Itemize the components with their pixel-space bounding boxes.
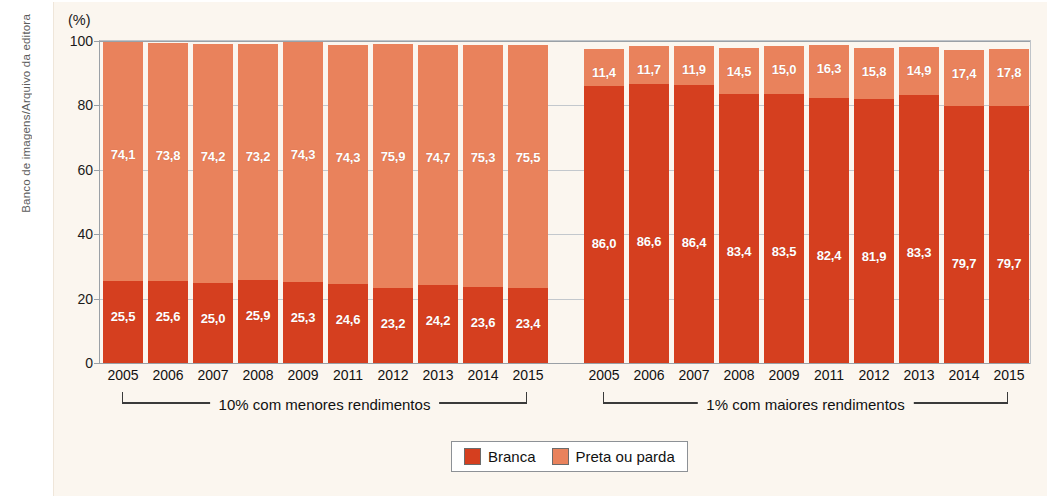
stacked-bar-lowest-incomes-2014[interactable]: 75,323,6 xyxy=(463,41,503,363)
value-label-preta-ou-parda: 75,5 xyxy=(516,150,541,165)
segment-preta-ou-parda: 17,8 xyxy=(989,49,1029,106)
plot-area: 020406080100 74,125,573,825,674,225,073,… xyxy=(99,40,1031,364)
value-label-preta-ou-parda: 75,3 xyxy=(471,150,496,165)
stacked-bar-highest-incomes-2013[interactable]: 14,983,3 xyxy=(899,41,939,363)
stacked-bar-lowest-incomes-2013[interactable]: 74,724,2 xyxy=(418,41,458,363)
group-caption: 1% com maiores rendimentos xyxy=(697,396,913,413)
segment-preta-ou-parda: 11,9 xyxy=(674,46,714,84)
stacked-bar-lowest-incomes-2008[interactable]: 73,225,9 xyxy=(238,41,278,363)
value-label-preta-ou-parda: 74,3 xyxy=(336,150,361,165)
y-axis-tick-mark xyxy=(94,170,100,171)
y-axis-tick-label: 40 xyxy=(77,226,93,242)
value-label-preta-ou-parda: 17,8 xyxy=(997,65,1022,80)
x-axis-label-2015: 2015 xyxy=(512,367,543,383)
segment-preta-ou-parda: 14,5 xyxy=(719,48,759,95)
y-axis-unit-label: (%) xyxy=(68,12,91,28)
x-axis-label-2014: 2014 xyxy=(948,367,979,383)
segment-preta-ou-parda: 74,2 xyxy=(193,44,233,283)
value-label-branca: 23,4 xyxy=(516,316,541,331)
y-axis-tick-mark xyxy=(94,41,100,42)
x-axis-label-2011: 2011 xyxy=(333,367,363,383)
y-axis-tick-label: 80 xyxy=(77,97,93,113)
segment-branca: 86,6 xyxy=(629,84,669,363)
legend-swatch-preta-ou-parda xyxy=(552,448,569,465)
legend-item-branca: Branca xyxy=(464,448,536,465)
stacked-bar-lowest-incomes-2011[interactable]: 74,324,6 xyxy=(328,41,368,363)
x-axis-label-2008: 2008 xyxy=(242,367,273,383)
segment-branca: 86,0 xyxy=(584,86,624,363)
y-axis-tick-mark xyxy=(94,234,100,235)
stacked-bar-highest-incomes-2014[interactable]: 17,479,7 xyxy=(944,41,984,363)
value-label-branca: 83,5 xyxy=(772,244,797,259)
value-label-branca: 23,2 xyxy=(381,316,406,331)
value-label-preta-ou-parda: 74,2 xyxy=(201,149,226,164)
x-axis-label-2013: 2013 xyxy=(903,367,934,383)
value-label-branca: 24,2 xyxy=(426,313,451,328)
value-label-preta-ou-parda: 14,9 xyxy=(907,63,932,78)
x-axis-label-2013: 2013 xyxy=(422,367,453,383)
value-label-branca: 82,4 xyxy=(817,248,842,263)
value-label-preta-ou-parda: 74,1 xyxy=(111,147,136,162)
value-label-preta-ou-parda: 11,4 xyxy=(592,65,616,80)
value-label-preta-ou-parda: 75,9 xyxy=(381,149,406,164)
x-axis-label-2011: 2011 xyxy=(814,367,844,383)
chart-panel: (%) 020406080100 74,125,573,825,674,225,… xyxy=(53,2,1047,496)
value-label-preta-ou-parda: 11,9 xyxy=(682,62,706,77)
x-axis-labels: 2005200620072008200920112012201320142015 xyxy=(103,363,555,389)
x-axis-label-2006: 2006 xyxy=(633,367,664,383)
segment-preta-ou-parda: 74,3 xyxy=(328,45,368,284)
segment-branca: 83,5 xyxy=(764,94,804,363)
value-label-preta-ou-parda: 17,4 xyxy=(952,66,977,81)
stacked-bar-lowest-incomes-2015[interactable]: 75,523,4 xyxy=(508,41,548,363)
value-label-branca: 86,0 xyxy=(592,236,617,251)
value-label-preta-ou-parda: 15,0 xyxy=(772,62,797,77)
value-label-branca: 79,7 xyxy=(997,256,1022,271)
value-label-branca: 24,6 xyxy=(336,312,361,327)
segment-preta-ou-parda: 17,4 xyxy=(944,50,984,106)
x-axis-label-2009: 2009 xyxy=(287,367,318,383)
x-axis-label-2005: 2005 xyxy=(107,367,138,383)
stacked-bar-highest-incomes-2005[interactable]: 11,486,0 xyxy=(584,41,624,363)
value-label-branca: 25,0 xyxy=(201,311,226,326)
segment-branca: 25,3 xyxy=(283,282,323,363)
segment-branca: 86,4 xyxy=(674,85,714,363)
segment-preta-ou-parda: 73,2 xyxy=(238,44,278,280)
y-axis-tick-mark xyxy=(94,105,100,106)
segment-preta-ou-parda: 74,1 xyxy=(103,42,143,281)
segment-preta-ou-parda: 75,9 xyxy=(373,44,413,288)
x-axis-label-2008: 2008 xyxy=(723,367,754,383)
group-caption: 10% com menores rendimentos xyxy=(210,396,440,413)
value-label-branca: 83,3 xyxy=(907,245,932,260)
segment-preta-ou-parda: 74,7 xyxy=(418,45,458,286)
x-axis-label-2015: 2015 xyxy=(993,367,1024,383)
segment-preta-ou-parda: 11,7 xyxy=(629,46,669,84)
segment-branca: 83,3 xyxy=(899,95,939,363)
stacked-bar-lowest-incomes-2006[interactable]: 73,825,6 xyxy=(148,41,188,363)
segment-branca: 25,0 xyxy=(193,283,233,364)
stacked-bar-highest-incomes-2012[interactable]: 15,881,9 xyxy=(854,41,894,363)
stacked-bar-lowest-incomes-2012[interactable]: 75,923,2 xyxy=(373,41,413,363)
stacked-bar-lowest-incomes-2009[interactable]: 74,325,3 xyxy=(283,41,323,363)
stacked-bar-lowest-incomes-2007[interactable]: 74,225,0 xyxy=(193,41,233,363)
y-axis-tick-label: 0 xyxy=(85,355,93,371)
x-axis-label-2007: 2007 xyxy=(678,367,709,383)
bar-group-lowest-incomes: 74,125,573,825,674,225,073,225,974,325,3… xyxy=(103,41,555,363)
stacked-bar-highest-incomes-2015[interactable]: 17,879,7 xyxy=(989,41,1029,363)
stacked-bar-highest-incomes-2006[interactable]: 11,786,6 xyxy=(629,41,669,363)
value-label-preta-ou-parda: 14,5 xyxy=(727,64,752,79)
stacked-bar-highest-incomes-2009[interactable]: 15,083,5 xyxy=(764,41,804,363)
segment-preta-ou-parda: 74,3 xyxy=(283,42,323,281)
stacked-bar-highest-incomes-2008[interactable]: 14,583,4 xyxy=(719,41,759,363)
segment-preta-ou-parda: 73,8 xyxy=(148,43,188,281)
stacked-bar-highest-incomes-2007[interactable]: 11,986,4 xyxy=(674,41,714,363)
stacked-bar-highest-incomes-2011[interactable]: 16,382,4 xyxy=(809,41,849,363)
segment-branca: 23,4 xyxy=(508,288,548,363)
bar-group-highest-incomes: 11,486,011,786,611,986,414,583,415,083,5… xyxy=(584,41,1029,363)
segment-preta-ou-parda: 14,9 xyxy=(899,47,939,95)
stacked-bar-lowest-incomes-2005[interactable]: 74,125,5 xyxy=(103,41,143,363)
y-axis-tick-label: 100 xyxy=(70,33,93,49)
x-axis-label-2006: 2006 xyxy=(152,367,183,383)
segment-branca: 79,7 xyxy=(944,106,984,363)
legend: Branca Preta ou parda xyxy=(451,441,688,472)
value-label-preta-ou-parda: 74,3 xyxy=(291,147,316,162)
